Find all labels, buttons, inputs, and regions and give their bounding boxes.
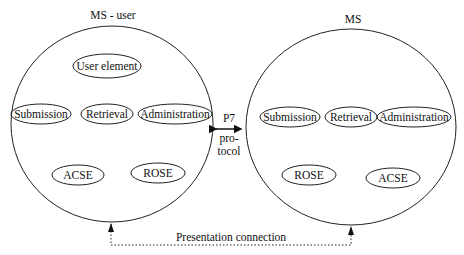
ms-entity: MS Submission Retrieval Administration R… <box>246 13 456 225</box>
p7-protocol-link: P7 pro- tocol <box>216 112 241 157</box>
p7-label: P7 <box>223 112 235 124</box>
protocol-label-line3: tocol <box>218 145 241 157</box>
ms-p7-diagram: MS - user User element Submission Retrie… <box>0 0 464 255</box>
left-acse-node: ACSE <box>52 165 104 185</box>
left-retrieval-node: Retrieval <box>81 104 133 124</box>
left-submission-node: Submission <box>11 104 71 124</box>
svg-text:Submission: Submission <box>14 108 68 120</box>
svg-text:Administration: Administration <box>140 108 210 120</box>
right-retrieval-node: Retrieval <box>325 107 377 127</box>
ms-user-entity: MS - user User element Submission Retrie… <box>11 9 213 222</box>
svg-text:ACSE: ACSE <box>63 169 92 181</box>
presentation-connection: Presentation connection <box>108 223 354 245</box>
right-acse-node: ACSE <box>366 168 420 188</box>
ms-user-title: MS - user <box>90 9 136 21</box>
svg-text:Retrieval: Retrieval <box>86 108 128 120</box>
svg-text:Submission: Submission <box>263 111 317 123</box>
protocol-label-line2: pro- <box>219 132 238 145</box>
right-submission-node: Submission <box>260 107 320 127</box>
right-rose-node: ROSE <box>282 165 336 185</box>
left-rose-node: ROSE <box>131 163 185 183</box>
left-administration-node: Administration <box>138 104 212 124</box>
user-element-node: User element <box>73 54 141 78</box>
right-administration-node: Administration <box>377 107 451 127</box>
svg-text:Retrieval: Retrieval <box>330 111 372 123</box>
svg-text:Administration: Administration <box>379 111 449 123</box>
svg-text:ROSE: ROSE <box>143 167 172 179</box>
up-arrow-icon <box>108 223 114 232</box>
presentation-connection-label: Presentation connection <box>176 231 286 243</box>
ms-title: MS <box>345 13 362 25</box>
svg-text:ACSE: ACSE <box>378 172 407 184</box>
svg-text:User element: User element <box>77 60 139 72</box>
svg-text:ROSE: ROSE <box>294 169 323 181</box>
up-arrow-icon <box>348 226 354 235</box>
